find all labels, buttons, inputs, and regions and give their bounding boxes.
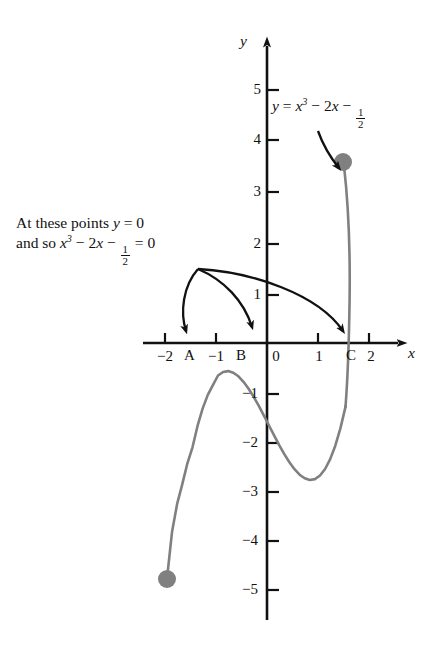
- x-axis-label: x: [408, 344, 415, 362]
- ytick-label-4: 4: [243, 131, 261, 148]
- caption-line-1: At these points y = 0: [16, 214, 155, 233]
- y-axis-label: y: [240, 32, 247, 50]
- xtick-label-2: 2: [363, 348, 379, 365]
- caption-var-y: y: [113, 214, 120, 231]
- ytick-label-minus1: −1: [228, 385, 258, 402]
- xtick-label-1: 1: [311, 348, 327, 365]
- ytick-label-minus4: −4: [228, 532, 258, 549]
- root-label-c: C: [346, 347, 356, 364]
- y-axis: [267, 46, 279, 620]
- arrow-to-root-c: [198, 269, 343, 331]
- xtick-label-0: 0: [268, 348, 284, 365]
- cubic-curve: [167, 166, 350, 579]
- curve-left-endpoint-dot: [158, 570, 176, 588]
- ytick-label-3: 3: [243, 183, 261, 200]
- xtick-label-minus1: −1: [203, 348, 229, 365]
- graph-figure: [0, 0, 447, 655]
- xtick-label-minus2: −2: [152, 348, 178, 365]
- equation-var-x2: x: [332, 97, 339, 114]
- arrow-to-root-a: [183, 269, 198, 331]
- caption-fraction-half: 12: [121, 244, 130, 267]
- equation-lhs: y: [272, 97, 279, 114]
- arrow-to-curve-label: [318, 131, 339, 168]
- curve-path-upper: [344, 166, 350, 407]
- ytick-label-1: 1: [243, 286, 261, 303]
- ytick-label-minus3: −3: [228, 483, 258, 500]
- root-label-a: A: [184, 347, 195, 364]
- caption-line-2: and so x3 − 2x − 12 = 0: [16, 233, 155, 267]
- root-label-b: B: [236, 347, 246, 364]
- ytick-label-minus5: −5: [228, 581, 258, 598]
- curve-right-endpoint-dot: [334, 153, 352, 171]
- curve-equation-label: y = x3 − 2x − 12: [272, 96, 366, 130]
- ytick-label-2: 2: [243, 235, 261, 252]
- ytick-label-5: 5: [243, 81, 261, 98]
- caption-var-x: x: [60, 234, 67, 251]
- caption-block: At these points y = 0 and so x3 − 2x − 1…: [16, 214, 155, 267]
- x-axis: [143, 333, 398, 343]
- ytick-label-minus2: −2: [228, 434, 258, 451]
- equation-fraction-half: 12: [356, 107, 365, 130]
- annotation-arrows: [183, 269, 343, 331]
